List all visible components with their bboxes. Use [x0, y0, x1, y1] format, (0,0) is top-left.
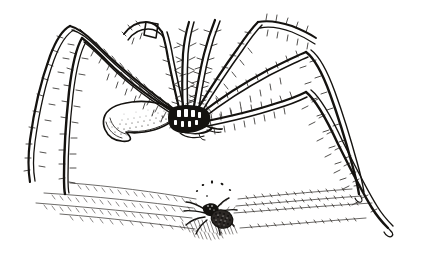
- illustration-canvas: Giant long-legged spider looming over a …: [0, 0, 424, 270]
- spider-illustration-svg: Giant long-legged spider looming over a …: [0, 0, 424, 270]
